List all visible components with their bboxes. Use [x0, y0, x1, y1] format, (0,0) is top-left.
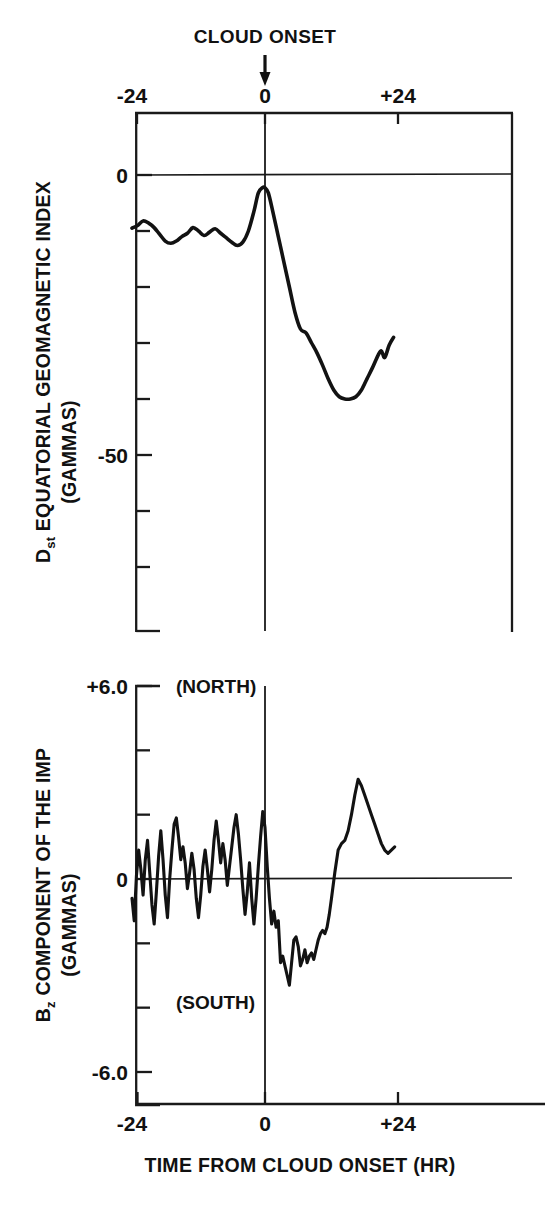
svg-text:Bz COMPONENT OF THE IMP: Bz COMPONENT OF THE IMP — [32, 748, 58, 1022]
dst-top-ticks — [137, 113, 398, 124]
tick-label: 0 — [116, 164, 128, 187]
cloud-onset-title: CLOUD ONSET — [194, 26, 337, 47]
tick-label: -24 — [117, 1112, 148, 1135]
dst-axis-units: (GAMMAS) — [58, 400, 80, 503]
bz-title-main: COMPONENT OF THE IMP — [32, 748, 54, 996]
panel-dst: -240+24 0-50 Dst EQUATORIAL GEOMAGNETIC … — [32, 84, 513, 632]
bz-data-curve — [132, 779, 395, 985]
dst-data-curve — [132, 187, 394, 399]
tick-label: -50 — [98, 444, 128, 467]
bz-zero-line — [136, 878, 512, 879]
dst-y-ticks — [137, 175, 152, 567]
figure-root: CLOUD ONSET -240+24 0-50 Dst E — [0, 0, 550, 1218]
panel-bz: -240+24 +6.00-6.0 (NORTH) (SOUTH) Bz COM… — [32, 675, 545, 1176]
dst-prefix: D — [32, 549, 54, 563]
south-label: (SOUTH) — [176, 992, 255, 1013]
dst-prefix-sub: st — [43, 536, 58, 548]
bz-bottom-ticks — [138, 1092, 399, 1104]
tick-label: +24 — [380, 1112, 416, 1135]
bz-axis-units: (GAMMAS) — [58, 873, 80, 976]
tick-label: 0 — [259, 1112, 271, 1135]
tick-label: +6.0 — [87, 675, 128, 698]
dst-zero-line — [136, 174, 512, 175]
bz-axis-title: Bz COMPONENT OF THE IMP — [32, 748, 58, 1022]
dst-title-main: EQUATORIAL GEOMAGNETIC INDEX — [32, 181, 54, 531]
dst-y-tick-labels: 0-50 — [98, 164, 128, 467]
bz-prefix: B — [32, 1008, 54, 1022]
tick-label: -6.0 — [92, 1061, 128, 1084]
dst-axis-title: Dst EQUATORIAL GEOMAGNETIC INDEX — [32, 181, 58, 563]
x-axis-title: TIME FROM CLOUD ONSET (HR) — [144, 1154, 455, 1176]
svg-text:Dst EQUATORIAL GEOMAGNETIC IN: Dst EQUATORIAL GEOMAGNETIC INDEX — [32, 181, 58, 563]
north-label: (NORTH) — [176, 676, 256, 697]
tick-label: 0 — [116, 868, 128, 891]
tick-label: +24 — [380, 84, 416, 107]
tick-label: 0 — [259, 84, 271, 107]
dst-top-tick-labels: -240+24 — [117, 84, 416, 107]
down-arrow-icon — [260, 55, 271, 86]
tick-label: -24 — [117, 84, 148, 107]
bz-y-tick-labels: +6.00-6.0 — [87, 675, 128, 1084]
bz-bottom-tick-labels: -240+24 — [117, 1112, 416, 1135]
